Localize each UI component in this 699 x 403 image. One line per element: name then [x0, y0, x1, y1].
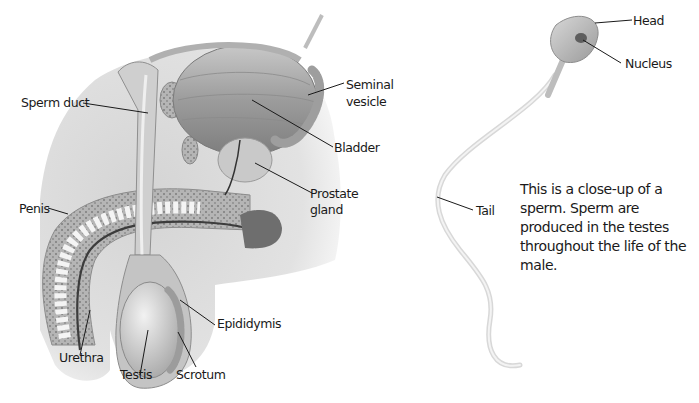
label-scrotum: Scrotum	[176, 367, 226, 382]
label-head: Head	[633, 13, 664, 28]
label-seminal-vesicle-line1: Seminal	[346, 77, 394, 92]
sperm-caption: This is a close-up of a sperm. Sperm are…	[520, 180, 699, 275]
label-seminal-vesicle-line2: vesicle	[346, 94, 386, 109]
label-penis: Penis	[19, 201, 50, 216]
label-prostate-line2: gland	[310, 202, 343, 217]
label-testis: Testis	[120, 367, 152, 382]
label-epididymis: Epididymis	[217, 316, 281, 331]
label-tail: Tail	[476, 203, 495, 218]
label-nucleus: Nucleus	[625, 56, 672, 71]
diagram-stage: Sperm duct Seminal vesicle Bladder Prost…	[0, 0, 699, 403]
label-bladder: Bladder	[334, 140, 380, 155]
label-urethra: Urethra	[59, 350, 104, 365]
label-prostate-line1: Prostate	[310, 186, 358, 201]
label-sperm-duct: Sperm duct	[21, 95, 89, 110]
